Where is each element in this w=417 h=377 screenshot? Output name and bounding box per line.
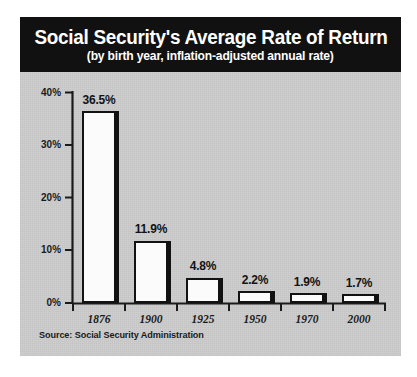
y-tick-label-10: 10% — [29, 243, 61, 255]
bar-1970 — [290, 293, 324, 303]
source-note: Source: Social Security Administration — [39, 329, 204, 340]
bar-1925 — [186, 278, 220, 303]
bar-1876 — [82, 111, 116, 303]
bar-1900 — [134, 241, 168, 304]
y-tick-label-30: 30% — [29, 138, 61, 150]
title-banner: Social Security's Average Rate of Return… — [20, 17, 401, 72]
chart-subtitle: (by birth year, inflation-adjusted annua… — [87, 48, 334, 64]
y-tick-label-0: 0% — [29, 296, 61, 308]
bar-value-1925: 4.8% — [172, 259, 233, 273]
bar-2000 — [342, 294, 376, 303]
bar-value-2000: 1.7% — [328, 276, 389, 290]
chart-figure: Social Security's Average Rate of Return… — [0, 0, 417, 377]
bar-value-1900: 11.9% — [120, 222, 181, 236]
chart-title: Social Security's Average Rate of Return — [34, 26, 387, 48]
bar-value-1876: 36.5% — [68, 93, 129, 107]
bar-1950 — [238, 291, 272, 303]
y-tick-label-20: 20% — [29, 191, 61, 203]
x-tick-label-2000: 2000 — [327, 313, 391, 325]
y-tick-label-40: 40% — [29, 86, 61, 98]
